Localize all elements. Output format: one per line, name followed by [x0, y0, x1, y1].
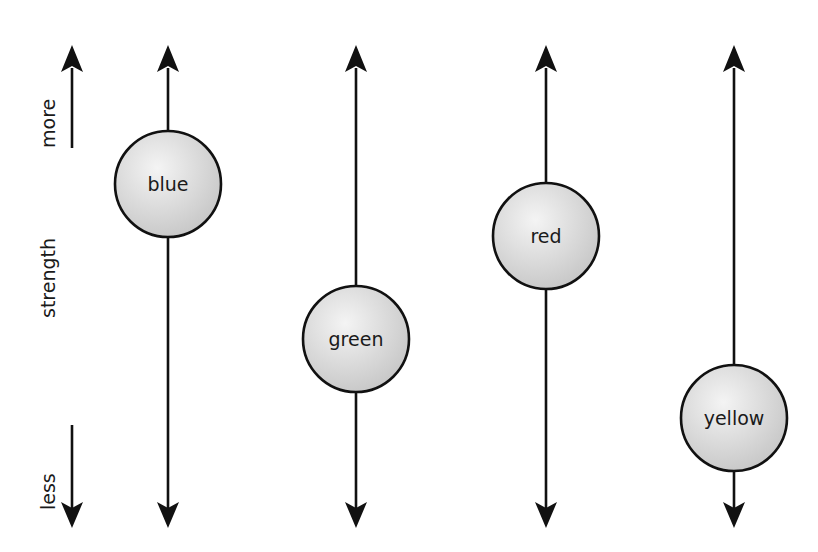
column-green: green [303, 45, 409, 528]
column-red: red [493, 45, 599, 528]
column-yellow: yellow [681, 45, 787, 528]
green-label: green [329, 328, 384, 350]
column-blue: blue [115, 45, 221, 528]
axis-top-label: more [37, 99, 59, 148]
red-label: red [530, 225, 561, 247]
arrow-up-icon [157, 45, 179, 72]
strength-diagram: more strength less blue green red yellow [0, 0, 818, 552]
axis-bottom-label: less [37, 473, 59, 510]
blue-label: blue [147, 173, 188, 195]
arrow-up-icon [61, 45, 83, 72]
strength-axis: more strength less [37, 45, 83, 528]
yellow-label: yellow [704, 407, 765, 429]
arrow-up-icon [345, 45, 367, 72]
arrow-up-icon [723, 45, 745, 72]
axis-title: strength [37, 238, 59, 318]
arrow-up-icon [535, 45, 557, 72]
